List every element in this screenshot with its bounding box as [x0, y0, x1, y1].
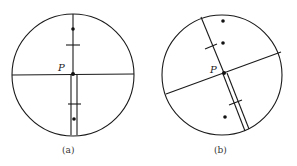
dot-upper-b	[221, 41, 225, 45]
dot-upper-a	[71, 27, 75, 31]
panel-b: P (b)	[162, 15, 282, 155]
dot-lower-b	[223, 115, 227, 119]
field-circle-b	[162, 15, 282, 135]
caption-b: (b)	[214, 145, 227, 155]
caption-a: (a)	[62, 145, 74, 155]
tick-upper-b	[205, 44, 217, 49]
figure: P (a) P (b)	[0, 0, 297, 166]
point-p-a	[71, 72, 75, 76]
dot-lower-a	[72, 117, 76, 121]
point-p-b	[222, 71, 226, 75]
label-p-a: P	[57, 62, 65, 73]
label-p-b: P	[209, 64, 217, 75]
panel-a: P (a)	[12, 14, 134, 155]
tick-lower-b	[229, 100, 242, 105]
dot-top-b	[221, 19, 225, 23]
